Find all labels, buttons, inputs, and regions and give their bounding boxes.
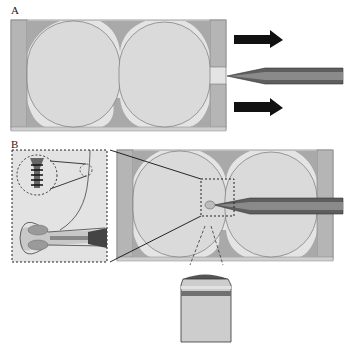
- panel-a-diagram: [11, 20, 343, 131]
- cylinder-side-view: [181, 275, 231, 343]
- arrow-right-icon: [234, 30, 283, 48]
- pipette-icon: [227, 68, 343, 84]
- arrow-right-icon: [234, 98, 283, 116]
- sphere-left: [27, 21, 120, 127]
- magnified-inset: [12, 150, 107, 262]
- sphere-right: [119, 22, 210, 127]
- right-wall-bottom: [210, 84, 226, 128]
- right-wall-top: [210, 20, 226, 67]
- panel-b-diagram: [12, 150, 343, 342]
- left-wall: [11, 20, 27, 128]
